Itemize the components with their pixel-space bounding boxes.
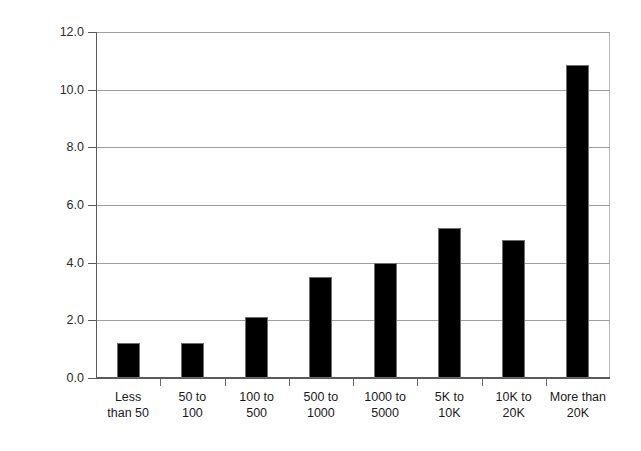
plot-area [96, 32, 610, 378]
y-axis-tick-label: 4.0 [36, 256, 84, 270]
x-axis-label-line: 100 to [221, 389, 293, 405]
y-axis-tick-label: 2.0 [36, 313, 84, 327]
x-axis-label-line: 1000 [285, 405, 357, 421]
x-axis-label-line: 500 to [285, 389, 357, 405]
bar [438, 228, 461, 378]
x-axis-label-line: 20K [478, 405, 550, 421]
bottom-margin [0, 424, 641, 451]
x-axis-label-line: 1000 to [349, 389, 421, 405]
x-axis-label-line: 20K [542, 405, 614, 421]
x-axis-tick-label: More than20K [542, 389, 614, 421]
y-axis-tick [88, 378, 97, 379]
x-axis-label-line: 10K to [478, 389, 550, 405]
x-axis-label-line: Less [92, 389, 164, 405]
x-axis-label-line: 500 [221, 405, 293, 421]
y-axis-tick-label: 10.0 [36, 83, 84, 97]
bar-chart: Average FTE dedicated to change manageme… [0, 0, 641, 451]
bar [502, 240, 525, 378]
y-axis-tick-label: 12.0 [36, 25, 84, 39]
x-axis-tick [482, 379, 483, 386]
x-axis-tick-label: 100 to500 [221, 389, 293, 421]
x-axis-label-line: 10K [413, 405, 485, 421]
x-axis-tick [289, 379, 290, 386]
x-axis-tick-label: 1000 to5000 [349, 389, 421, 421]
x-axis-label-line: More than [542, 389, 614, 405]
x-axis-label-line: 5K to [413, 389, 485, 405]
x-axis-tick [417, 379, 418, 386]
y-axis-tick-label: 6.0 [36, 198, 84, 212]
bar [566, 65, 589, 378]
bar [374, 263, 397, 378]
bar [245, 317, 268, 378]
x-axis-tick [225, 379, 226, 386]
x-axis-label-line: than 50 [92, 405, 164, 421]
x-axis-tick-label: 5K to10K [413, 389, 485, 421]
bar [309, 277, 332, 378]
x-axis-tick-label: 10K to20K [478, 389, 550, 421]
bar [117, 343, 140, 378]
y-axis-tick-label: 0.0 [36, 371, 84, 385]
y-axis-tick-label: 8.0 [36, 140, 84, 154]
x-axis-tick [546, 379, 547, 386]
x-axis-label-line: 100 [156, 405, 228, 421]
x-axis-tick-label: 50 to100 [156, 389, 228, 421]
bar [181, 343, 204, 378]
x-axis-tick-label: Lessthan 50 [92, 389, 164, 421]
x-axis-label-line: 5000 [349, 405, 421, 421]
x-axis-label-line: 50 to [156, 389, 228, 405]
x-axis-tick [353, 379, 354, 386]
x-axis-tick-label: 500 to1000 [285, 389, 357, 421]
x-axis-tick [160, 379, 161, 386]
